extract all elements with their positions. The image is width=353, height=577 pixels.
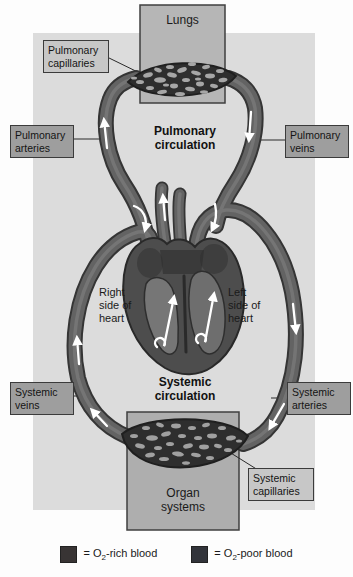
right-atrium (137, 248, 163, 278)
pulmonary-circulation-label: Pulmonary circulation (130, 124, 240, 152)
pulmonary-arteries-callout: Pulmonary arteries (10, 125, 74, 158)
left-side-of-heart-label: Left side of heart (228, 286, 266, 325)
systemic-circulation-label: Systemic circulation (130, 375, 240, 403)
left-atrium (200, 244, 228, 274)
pulmonary-veins-callout: Pulmonary veins (285, 125, 349, 158)
organ-systems-label: Organ systems (153, 486, 213, 514)
legend-item-o2-poor: = O2-poor blood (191, 546, 292, 563)
systemic-capillaries-callout: Systemic capillaries (248, 468, 314, 501)
legend-item-o2-rich: = O2-rich blood (60, 546, 157, 563)
pulmonary-capillaries-callout: Pulmonary capillaries (43, 40, 109, 73)
legend: = O2-rich blood = O2-poor blood (0, 546, 353, 563)
o2-rich-label: = O2-rich blood (83, 547, 157, 562)
right-side-of-heart-label: Right side of heart (99, 286, 137, 325)
o2-poor-label: = O2-poor blood (214, 547, 292, 562)
circulation-diagram: Lungs Pulmonary circulation Right side o… (0, 0, 353, 577)
o2-poor-swatch (191, 546, 208, 563)
o2-rich-swatch (60, 546, 77, 563)
systemic-veins-callout: Systemic veins (10, 382, 74, 415)
lungs-label: Lungs (140, 13, 225, 27)
systemic-arteries-callout: Systemic arteries (287, 382, 351, 415)
